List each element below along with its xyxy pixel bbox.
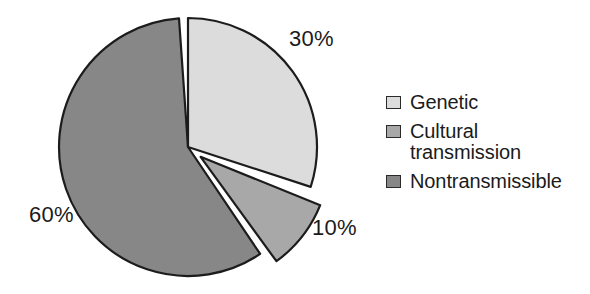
legend-label-genetic: Genetic [410, 92, 478, 113]
legend-swatch-icon-nontransmissible [386, 175, 401, 188]
chart-legend: Genetic Cultural transmission Nontransmi… [386, 92, 590, 200]
legend-label-cultural-line1: Cultural [410, 120, 478, 142]
pie-chart-figure: 30% 10% 60% Genetic Cultural transmissio… [0, 0, 590, 294]
legend-label-nontransmissible: Nontransmissible [410, 171, 562, 192]
pie-value-label-nontransmissible: 60% [29, 202, 74, 228]
pie-value-label-cultural-transmission: 10% [312, 215, 357, 241]
legend-label-cultural-line2: transmission [410, 142, 521, 163]
legend-swatch-icon-cultural-transmission [386, 125, 401, 138]
pie-chart-plot-area: 30% 10% 60% [0, 0, 380, 294]
legend-item-genetic[interactable]: Genetic [386, 92, 590, 113]
pie-slices [59, 18, 320, 276]
pie-value-label-genetic: 30% [289, 26, 334, 52]
legend-swatch-icon-genetic [386, 96, 401, 109]
legend-item-cultural-transmission[interactable]: Cultural transmission [386, 121, 590, 163]
legend-label-cultural-transmission: Cultural transmission [410, 121, 521, 163]
legend-item-nontransmissible[interactable]: Nontransmissible [386, 171, 590, 192]
